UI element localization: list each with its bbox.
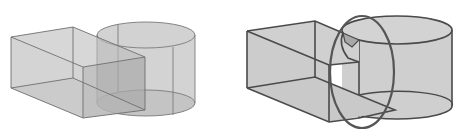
right-panel-highlighted-intersection <box>0 0 464 140</box>
figure-canvas <box>0 0 464 140</box>
